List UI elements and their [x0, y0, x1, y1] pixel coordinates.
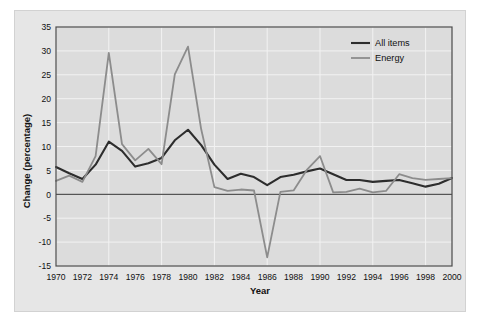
y-tick-label: 25	[41, 70, 51, 80]
x-tick-label: 1994	[363, 272, 382, 282]
x-tick-label: 1978	[152, 272, 171, 282]
x-tick-label: 1986	[258, 272, 277, 282]
x-tick-label: 1988	[284, 272, 303, 282]
x-tick-label: 1974	[99, 272, 118, 282]
x-tick-label: 1980	[178, 272, 197, 282]
x-axis-tick-labels: 1970197219741976197819801982198419861988…	[46, 272, 461, 282]
chart-card: -15-10-505101520253035 19701972197419761…	[14, 10, 466, 312]
y-axis-tick-labels: -15-10-505101520253035	[39, 22, 52, 271]
legend-label-energy[interactable]: Energy	[375, 53, 405, 63]
x-tick-label: 1984	[231, 272, 250, 282]
y-tick-label: 5	[46, 166, 51, 176]
x-tick-label: 1976	[126, 272, 145, 282]
x-tick-label: 1992	[337, 272, 356, 282]
legend-label-all-items[interactable]: All items	[375, 38, 410, 48]
figure-container: -15-10-505101520253035 19701972197419761…	[0, 0, 478, 321]
y-tick-label: 10	[41, 142, 51, 152]
y-tick-label: 20	[41, 94, 51, 104]
y-tick-label: 35	[41, 22, 51, 32]
x-tick-label: 1970	[46, 272, 65, 282]
y-tick-label: 30	[41, 46, 51, 56]
y-tick-label: -15	[39, 261, 52, 271]
x-tick-label: 2000	[442, 272, 461, 282]
y-tick-label: 15	[41, 118, 51, 128]
y-axis-title: Change (percentage)	[21, 114, 32, 209]
y-tick-label: -5	[43, 213, 51, 223]
y-tick-label: -10	[39, 237, 52, 247]
x-tick-label: 1998	[416, 272, 435, 282]
x-tick-label: 1972	[73, 272, 92, 282]
y-tick-label: 0	[46, 190, 51, 200]
x-tick-label: 1996	[390, 272, 409, 282]
line-chart: -15-10-505101520253035 19701972197419761…	[15, 11, 465, 311]
x-axis-title: Year	[250, 285, 270, 296]
x-tick-label: 1982	[205, 272, 224, 282]
x-tick-label: 1990	[310, 272, 329, 282]
